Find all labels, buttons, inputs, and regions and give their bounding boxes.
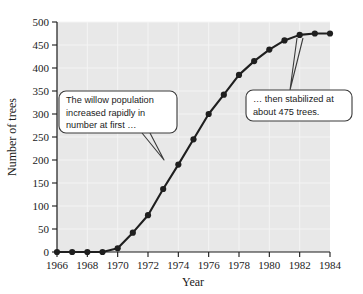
data-point bbox=[312, 30, 318, 36]
y-tick-label: 200 bbox=[33, 154, 50, 166]
data-point bbox=[297, 32, 303, 38]
x-tick-label: 1980 bbox=[258, 259, 281, 271]
data-point bbox=[281, 37, 287, 43]
data-point bbox=[221, 92, 227, 98]
x-tick-label: 1972 bbox=[137, 259, 159, 271]
callout-left-line-2: increased rapidly in bbox=[66, 108, 145, 118]
data-point bbox=[99, 249, 105, 255]
y-axis-title: Number of trees bbox=[5, 98, 19, 176]
data-point bbox=[130, 230, 136, 236]
data-point bbox=[327, 30, 333, 36]
data-point bbox=[84, 249, 90, 255]
data-point bbox=[54, 249, 60, 255]
x-tick-label: 1982 bbox=[289, 259, 311, 271]
x-tick-label: 1984 bbox=[319, 259, 342, 271]
callout-right-line-1: … then stabilized at bbox=[253, 94, 334, 104]
y-tick-label: 0 bbox=[44, 246, 50, 258]
callout-right-line-2: about 475 trees. bbox=[253, 107, 319, 117]
x-tick-label: 1966 bbox=[46, 259, 69, 271]
x-axis-tick-labels: 1966 1968 1970 1972 1974 1976 1978 1980 … bbox=[46, 259, 342, 271]
x-tick-label: 1974 bbox=[167, 259, 190, 271]
callout-left-line-1: The willow population bbox=[66, 95, 154, 105]
y-tick-label: 250 bbox=[33, 131, 50, 143]
x-axis-title: Year bbox=[182, 275, 204, 289]
data-point bbox=[115, 245, 121, 251]
y-tick-label: 300 bbox=[33, 108, 50, 120]
x-tick-label: 1970 bbox=[107, 259, 130, 271]
y-tick-label: 50 bbox=[38, 223, 50, 235]
y-axis-ticks bbox=[52, 22, 57, 252]
x-tick-label: 1978 bbox=[228, 259, 251, 271]
data-point bbox=[206, 111, 212, 117]
data-point bbox=[251, 58, 257, 64]
data-point bbox=[160, 186, 166, 192]
callout-left-line-3: number at first … bbox=[66, 120, 136, 130]
y-tick-label: 500 bbox=[33, 16, 50, 28]
y-tick-label: 100 bbox=[33, 200, 50, 212]
data-point bbox=[69, 249, 75, 255]
line-chart: 500 450 400 350 300 250 200 150 100 50 0… bbox=[0, 0, 363, 294]
y-tick-label: 350 bbox=[33, 85, 50, 97]
y-tick-label: 400 bbox=[33, 62, 50, 74]
y-axis-tick-labels: 500 450 400 350 300 250 200 150 100 50 0 bbox=[33, 16, 50, 258]
x-tick-label: 1968 bbox=[76, 259, 99, 271]
x-tick-label: 1976 bbox=[198, 259, 221, 271]
data-point bbox=[175, 162, 181, 168]
y-tick-label: 450 bbox=[33, 39, 50, 51]
data-point bbox=[190, 136, 196, 142]
data-point bbox=[266, 47, 272, 53]
data-point bbox=[145, 212, 151, 218]
data-point bbox=[236, 72, 242, 78]
y-tick-label: 150 bbox=[33, 177, 50, 189]
